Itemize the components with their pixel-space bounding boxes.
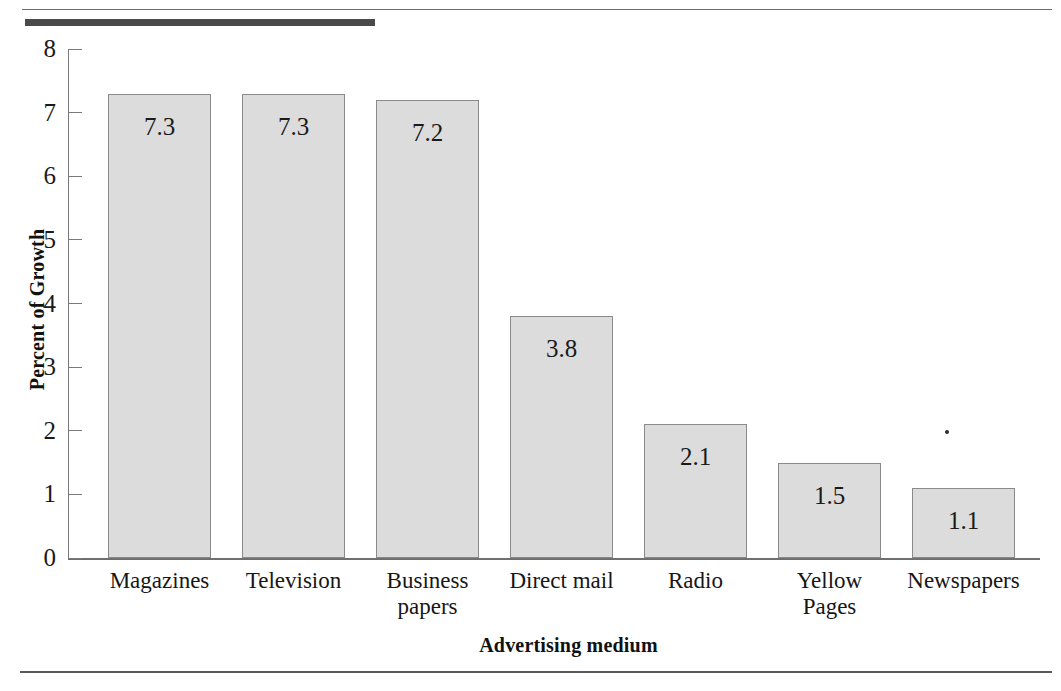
x-axis-category-label: Direct mail (494, 568, 629, 594)
y-axis-tick-label: 2 (22, 418, 56, 443)
bar-chart-plot: 012345678 7.37.37.23.82.11.51.1 Magazine… (0, 0, 1061, 691)
bar[interactable] (242, 94, 345, 558)
x-axis-category-label-line: Television (226, 568, 361, 594)
x-axis-category-label: Newspapers (896, 568, 1031, 594)
x-axis-category-label-line: Business (360, 568, 495, 594)
y-axis-tick (69, 176, 82, 177)
x-axis-line (68, 558, 1040, 560)
scan-artifact-speck (945, 430, 949, 434)
figure-canvas: 012345678 7.37.37.23.82.11.51.1 Magazine… (0, 0, 1061, 691)
x-axis-category-label-line: papers (360, 594, 495, 620)
bar[interactable] (778, 463, 881, 558)
bar-value-label: 7.2 (376, 120, 479, 145)
x-axis-category-label-line: Direct mail (494, 568, 629, 594)
bar-value-label: 7.3 (242, 114, 345, 139)
x-axis-category-label: Television (226, 568, 361, 594)
y-axis-tick (69, 367, 82, 368)
y-axis-tick-label: 8 (22, 36, 56, 61)
y-axis-title: Percent of Growth (26, 210, 49, 410)
bar-value-label: 1.1 (912, 508, 1015, 533)
y-axis-tick (69, 49, 82, 50)
x-axis-category-label: Businesspapers (360, 568, 495, 620)
x-axis-title-text: Advertising medium (479, 634, 658, 656)
x-axis-title: Advertising medium (0, 634, 1061, 657)
x-axis-category-label-line: Newspapers (896, 568, 1031, 594)
y-axis-tick-label: 7 (22, 100, 56, 125)
bar-value-label: 3.8 (510, 336, 613, 361)
y-axis-tick-label: 6 (22, 163, 56, 188)
x-axis-category-label: YellowPages (762, 568, 897, 620)
x-axis-category-label-line: Yellow (762, 568, 897, 594)
x-axis-category-label: Magazines (92, 568, 227, 594)
bar[interactable] (376, 100, 479, 558)
y-axis-tick (69, 112, 82, 113)
y-axis-tick (69, 303, 82, 304)
bar[interactable] (108, 94, 211, 558)
y-axis-tick-label: 0 (22, 545, 56, 570)
x-axis-category-label-line: Pages (762, 594, 897, 620)
y-axis-tick (69, 239, 82, 240)
bar-value-label: 1.5 (778, 483, 881, 508)
x-axis-category-label-line: Radio (628, 568, 763, 594)
x-axis-category-label-line: Magazines (92, 568, 227, 594)
y-axis-line (68, 49, 69, 559)
bottom-rule (20, 671, 1052, 673)
bar-value-label: 2.1 (644, 444, 747, 469)
y-axis-tick-label: 1 (22, 481, 56, 506)
y-axis-tick (69, 494, 82, 495)
bar-value-label: 7.3 (108, 114, 211, 139)
y-axis-tick (69, 430, 82, 431)
x-axis-category-label: Radio (628, 568, 763, 594)
y-axis-tick (69, 558, 82, 559)
